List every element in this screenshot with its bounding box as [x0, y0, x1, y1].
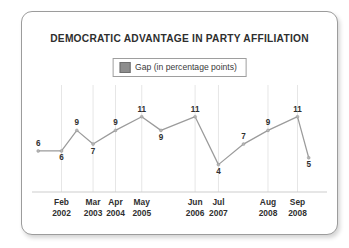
x-axis-tick-month: Mar — [84, 197, 103, 208]
x-axis-tick-month: Aug — [259, 197, 278, 208]
line-chart-svg: 6697911911479115 — [32, 85, 327, 193]
chart-title: DEMOCRATIC ADVANTAGE IN PARTY AFFILIATIO… — [22, 33, 337, 44]
data-point — [92, 143, 95, 146]
data-point — [114, 129, 117, 132]
chart-card: DEMOCRATIC ADVANTAGE IN PARTY AFFILIATIO… — [21, 11, 338, 235]
data-point — [140, 115, 143, 118]
data-value-label: 9 — [159, 133, 164, 142]
x-axis-tick-feb-2002: Feb2002 — [52, 197, 71, 219]
data-value-label: 9 — [113, 118, 118, 127]
x-axis-tick-jul-2007: Jul2007 — [209, 197, 228, 219]
x-axis-tick-year: 2005 — [132, 208, 151, 219]
data-point — [242, 143, 245, 146]
x-axis-tick-month: Jul — [209, 197, 228, 208]
x-axis-tick-month: May — [132, 197, 151, 208]
x-axis-tick-month: Jun — [186, 197, 205, 208]
data-point — [267, 129, 270, 132]
data-point — [307, 156, 310, 159]
data-point — [159, 129, 162, 132]
chart-legend: Gap (in percentage points) — [112, 58, 247, 77]
data-value-label: 9 — [266, 118, 271, 127]
data-point — [194, 115, 197, 118]
x-axis-tick-year: 2007 — [209, 208, 228, 219]
data-value-label: 7 — [91, 147, 96, 156]
data-value-label: 5 — [306, 160, 311, 169]
x-axis-tick-year: 2003 — [84, 208, 103, 219]
x-axis-tick-mar-2003: Mar2003 — [84, 197, 103, 219]
data-point — [60, 149, 63, 152]
data-point — [75, 129, 78, 132]
data-value-label: 6 — [59, 153, 64, 162]
x-axis-tick-sep-2008: Sep2008 — [288, 197, 307, 219]
x-axis-tick-jun-2006: Jun2006 — [186, 197, 205, 219]
x-axis-tick-year: 2004 — [106, 208, 125, 219]
data-value-label: 11 — [293, 105, 302, 114]
x-axis-tick-year: 2002 — [52, 208, 71, 219]
data-value-label: 7 — [241, 132, 246, 141]
data-value-label: 9 — [75, 118, 80, 127]
data-value-label: 11 — [137, 105, 146, 114]
data-point — [217, 163, 220, 166]
x-axis-tick-aug-2008: Aug2008 — [259, 197, 278, 219]
x-axis-tick-month: Feb — [52, 197, 71, 208]
legend-label-gap: Gap (in percentage points) — [135, 63, 237, 72]
legend-swatch-gap — [119, 62, 130, 73]
data-point — [37, 149, 40, 152]
x-axis-tick-may-2005: May2005 — [132, 197, 151, 219]
x-axis-tick-month: Apr — [106, 197, 125, 208]
x-axis-tick-apr-2004: Apr2004 — [106, 197, 125, 219]
data-value-label: 4 — [216, 167, 221, 176]
x-axis-tick-year: 2008 — [288, 208, 307, 219]
x-axis-labels: Feb2002Mar2003Apr2004May2005Jun2006Jul20… — [32, 197, 327, 231]
data-value-label: 11 — [191, 105, 200, 114]
gridlines — [62, 85, 298, 192]
data-point — [296, 115, 299, 118]
x-axis-tick-year: 2008 — [259, 208, 278, 219]
x-axis-tick-month: Sep — [288, 197, 307, 208]
plot-area: 6697911911479115 — [32, 85, 327, 193]
data-value-label: 6 — [36, 139, 41, 148]
data-value-labels: 6697911911479115 — [36, 105, 311, 176]
x-axis-tick-year: 2006 — [186, 208, 205, 219]
